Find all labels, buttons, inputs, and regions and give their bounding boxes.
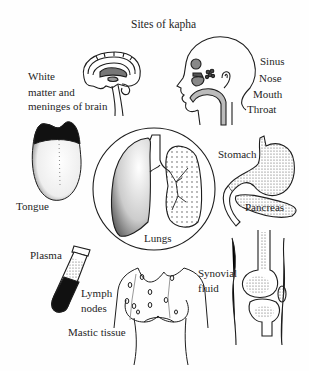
head-profile-icon bbox=[177, 37, 255, 125]
label-brain-line3: meninges of brain bbox=[28, 100, 107, 113]
label-lymph-line2: nodes bbox=[81, 302, 107, 315]
chest-icon bbox=[114, 268, 208, 365]
label-mouth: Mouth bbox=[253, 88, 282, 101]
label-stomach: Stomach bbox=[218, 148, 257, 161]
label-brain-line1: White bbox=[28, 70, 55, 83]
kapha-sites-diagram: Sites of kapha White matter and meninges… bbox=[0, 0, 309, 371]
label-mastic-tissue: Mastic tissue bbox=[68, 326, 126, 339]
label-plasma: Plasma bbox=[30, 249, 62, 262]
knee-joint-icon bbox=[232, 230, 286, 345]
label-synovial-line1: Synovial bbox=[198, 267, 237, 280]
label-lymph-line1: Lymph bbox=[81, 287, 112, 300]
label-brain-line2: matter and bbox=[28, 86, 75, 99]
tongue-icon bbox=[32, 122, 81, 201]
label-tongue: Tongue bbox=[16, 200, 49, 213]
label-nose: Nose bbox=[259, 72, 282, 85]
label-synovial-line2: fluid bbox=[198, 282, 219, 295]
label-lungs: Lungs bbox=[144, 232, 172, 245]
label-throat: Throat bbox=[247, 103, 276, 116]
diagram-title: Sites of kapha bbox=[131, 18, 196, 31]
label-sinus: Sinus bbox=[260, 55, 284, 68]
label-pancreas: Pancreas bbox=[245, 201, 284, 214]
